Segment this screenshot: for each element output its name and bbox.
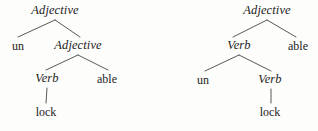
syntax-tree-figure: Adjective un Adjective Verb able lock Ad… bbox=[0, 0, 318, 131]
tree-left-node-un: un bbox=[12, 40, 24, 53]
edge-right-root-able bbox=[267, 20, 296, 37]
edge-left-root-adjective bbox=[55, 20, 80, 37]
edge-right-verb-un bbox=[205, 55, 239, 71]
tree-left-node-able: able bbox=[97, 73, 117, 86]
tree-right-node-un: un bbox=[197, 74, 209, 87]
edge-left-adjective-able bbox=[78, 55, 108, 70]
tree-right-node-verb-lower: Verb bbox=[258, 73, 281, 86]
edge-right-root-verb bbox=[233, 20, 267, 37]
tree-right-node-root-adjective: Adjective bbox=[243, 4, 290, 17]
tree-left-edges bbox=[18, 20, 108, 103]
tree-right-node-able: able bbox=[288, 40, 308, 53]
edge-left-adjective-verb bbox=[46, 55, 78, 70]
tree-right-edges bbox=[205, 20, 296, 103]
tree-right-node-lock: lock bbox=[260, 106, 281, 119]
edge-right-verb-verb bbox=[239, 55, 271, 71]
tree-left-node-verb: Verb bbox=[35, 72, 58, 85]
tree-right-node-verb-upper: Verb bbox=[227, 39, 250, 52]
tree-left-node-lock: lock bbox=[36, 106, 57, 119]
tree-left-node-adjective: Adjective bbox=[54, 39, 101, 52]
tree-left-node-root-adjective: Adjective bbox=[31, 4, 78, 17]
edge-left-root-un bbox=[18, 20, 55, 37]
edge-left-verb-lock bbox=[46, 88, 47, 103]
